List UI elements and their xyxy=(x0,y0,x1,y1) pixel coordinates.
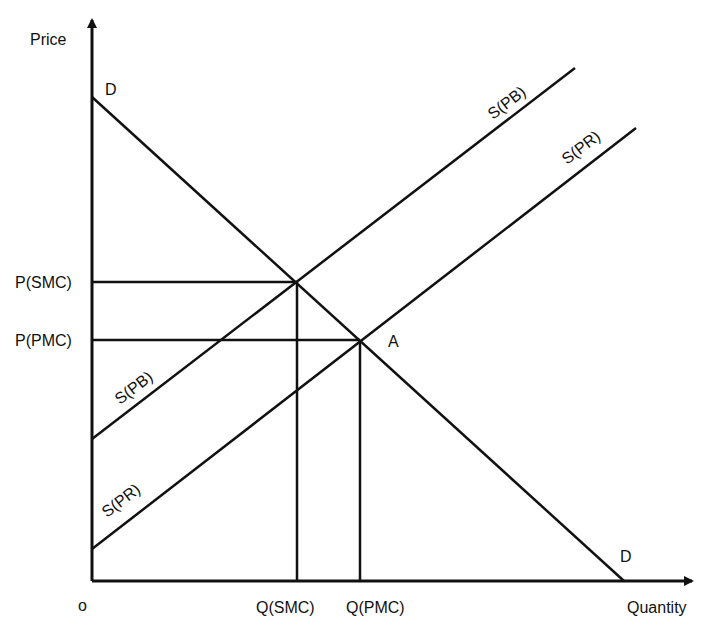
demand-label-top: D xyxy=(105,81,117,98)
q-pmc-label: Q(PMC) xyxy=(346,599,405,616)
demand-label-bottom: D xyxy=(620,548,632,565)
q-smc-label: Q(SMC) xyxy=(256,599,315,616)
point-a-label: A xyxy=(388,333,399,350)
x-axis-label: Quantity xyxy=(627,599,687,616)
supply-pb-label-top: S(PB) xyxy=(484,83,528,122)
origin-label: o xyxy=(78,597,87,614)
p-smc-label: P(SMC) xyxy=(15,274,72,291)
y-axis-label: Price xyxy=(30,31,67,48)
supply-demand-chart: Price Quantity o D D S(PB) S(PR) S(PB) S… xyxy=(0,0,710,635)
p-pmc-label: P(PMC) xyxy=(15,332,72,349)
supply-pr-label-top: S(PR) xyxy=(558,127,603,167)
supply-pr-curve xyxy=(92,128,636,549)
supply-pb-curve xyxy=(92,68,575,439)
supply-pb-label-low: S(PB) xyxy=(111,368,155,407)
